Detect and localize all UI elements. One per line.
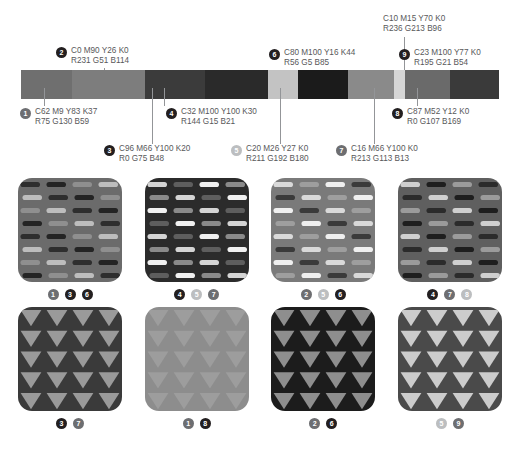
color-bar-segment-3 (145, 70, 205, 99)
color-bar-segment-4 (205, 70, 268, 99)
leader-line-7 (374, 88, 375, 144)
color-bar-segment-5 (268, 70, 298, 99)
swatch-triangle-2[interactable] (145, 307, 249, 411)
leader-line-5 (280, 88, 281, 144)
swatch-triangle-1[interactable] (18, 307, 122, 411)
callout-9-badge: 9 (399, 49, 410, 60)
swatch-dash-2-tags: 457 (174, 289, 219, 300)
swatch-bottom-cell-1: 37 (18, 307, 122, 429)
callout-6-badge: 6 (269, 49, 280, 60)
callout-5-text: C20 M26 Y27 K0 R211 G192 B180 (246, 144, 309, 165)
swatch-dash-4[interactable] (398, 178, 502, 282)
callout-8-text: C87 M52 Y12 K0 R0 G107 B169 (407, 107, 469, 128)
swatch-triangle-3-tags: 26 (309, 418, 337, 429)
callout-9-text: C23 M100 Y77 K0 R195 G21 B54 (414, 48, 481, 69)
callout-10-rgb: R236 G213 B96 (383, 24, 445, 34)
swatch-triangle-4-tags: 59 (436, 418, 464, 429)
callout-4-text: C32 M100 Y100 K30 R144 G15 B21 (181, 107, 257, 128)
color-bar-segment-9 (450, 70, 499, 99)
callout-9-cmyk: C23 M100 Y77 K0 (414, 48, 481, 58)
callout-10: C10 M15 Y70 K0 R236 G213 B96 (383, 14, 445, 35)
swatch-bottom-cell-3: 26 (271, 307, 375, 429)
swatch-triangle-1-tag-7: 7 (73, 418, 84, 429)
swatch-dash-1-tag-1: 1 (48, 289, 59, 300)
callout-3: 3 C96 M66 Y100 K20 R0 G75 B48 (104, 144, 190, 165)
swatch-dash-2-tag-4: 4 (174, 289, 185, 300)
swatch-dash-4-tag-7: 7 (444, 289, 455, 300)
callout-2-cmyk: C0 M90 Y26 K0 (71, 46, 129, 56)
leader-line-8 (417, 88, 418, 106)
swatch-top-cell-2: 457 (145, 178, 249, 300)
callout-6-rgb: R56 G5 B85 (284, 58, 355, 68)
callout-10-text: C10 M15 Y70 K0 R236 G213 B96 (383, 14, 445, 35)
callout-4-cmyk: C32 M100 Y100 K30 (181, 107, 257, 117)
callout-4: 4 C32 M100 Y100 K30 R144 G15 B21 (166, 107, 257, 128)
swatch-triangle-3-tag-2: 2 (309, 418, 320, 429)
callout-1: 1 C62 M9 Y83 K37 R75 G130 B59 (20, 107, 97, 128)
callout-1-rgb: R75 G130 B59 (35, 117, 97, 127)
swatch-triangle-3-tag-6: 6 (326, 418, 337, 429)
swatch-triangle-2-tag-1: 1 (183, 418, 194, 429)
callout-6-text: C80 M100 Y16 K44 R56 G5 B85 (284, 48, 355, 69)
swatch-bottom-cell-4: 59 (398, 307, 502, 429)
callout-3-cmyk: C96 M66 Y100 K20 (119, 144, 190, 154)
swatch-triangle-1-tags: 37 (56, 418, 84, 429)
swatch-triangle-1-tag-3: 3 (56, 418, 67, 429)
callout-9-rgb: R195 G21 B54 (414, 58, 481, 68)
swatch-dash-1-tag-6: 6 (82, 289, 93, 300)
swatch-triangle-4-tag-9: 9 (453, 418, 464, 429)
swatch-triangle-4-tag-5: 5 (436, 418, 447, 429)
color-bar-segment-1 (21, 70, 72, 99)
leader-line-1 (44, 88, 45, 106)
color-bar-segment-6 (298, 70, 348, 99)
color-bar-segment-10 (394, 70, 405, 99)
callout-3-rgb: R0 G75 B48 (119, 154, 190, 164)
callout-6: 6 C80 M100 Y16 K44 R56 G5 B85 (269, 48, 355, 69)
callout-9: 9 C23 M100 Y77 K0 R195 G21 B54 (399, 48, 481, 69)
swatch-dash-4-tags: 478 (427, 289, 472, 300)
color-bar (21, 70, 499, 99)
swatch-dash-1[interactable] (18, 178, 122, 282)
callout-8-badge: 8 (392, 108, 403, 119)
swatch-dash-2-tag-5: 5 (191, 289, 202, 300)
callout-1-cmyk: C62 M9 Y83 K37 (35, 107, 97, 117)
swatch-row-top: 136457256478 (0, 178, 520, 300)
swatch-top-cell-3: 256 (271, 178, 375, 300)
callout-7-text: C16 M66 Y100 K0 R213 G113 B13 (351, 144, 418, 165)
callout-4-badge: 4 (166, 108, 177, 119)
swatch-triangle-2-tag-8: 8 (200, 418, 211, 429)
swatch-dash-1-tags: 136 (48, 289, 93, 300)
callout-2-text: C0 M90 Y26 K0 R231 G51 B114 (71, 46, 129, 67)
swatch-dash-4-tag-8: 8 (461, 289, 472, 300)
callout-10-cmyk: C10 M15 Y70 K0 (383, 14, 445, 24)
swatch-top-cell-1: 136 (18, 178, 122, 300)
callout-7-cmyk: C16 M66 Y100 K0 (351, 144, 418, 154)
swatch-bottom-cell-2: 18 (145, 307, 249, 429)
swatch-top-cell-4: 478 (398, 178, 502, 300)
swatch-triangle-2-tags: 18 (183, 418, 211, 429)
swatch-triangle-4[interactable] (398, 307, 502, 411)
callout-8-rgb: R0 G107 B169 (407, 117, 469, 127)
callout-5-rgb: R211 G192 B180 (246, 154, 309, 164)
callout-3-text: C96 M66 Y100 K20 R0 G75 B48 (119, 144, 190, 165)
color-bar-segment-8 (405, 70, 450, 99)
callout-6-cmyk: C80 M100 Y16 K44 (284, 48, 355, 58)
swatch-dash-1-tag-3: 3 (65, 289, 76, 300)
callout-5-cmyk: C20 M26 Y27 K0 (246, 144, 309, 154)
callout-2: 2 C0 M90 Y26 K0 R231 G51 B114 (56, 46, 129, 67)
swatch-dash-3-tag-5: 5 (318, 289, 329, 300)
callout-1-text: C62 M9 Y83 K37 R75 G130 B59 (35, 107, 97, 128)
swatch-dash-3-tag-6: 6 (335, 289, 346, 300)
swatch-dash-2[interactable] (145, 178, 249, 282)
callout-7-rgb: R213 G113 B13 (351, 154, 418, 164)
swatch-dash-2-tag-7: 7 (208, 289, 219, 300)
swatch-dash-4-tag-4: 4 (427, 289, 438, 300)
leader-line-3 (152, 88, 153, 144)
callout-1-badge: 1 (20, 108, 31, 119)
callout-8-cmyk: C87 M52 Y12 K0 (407, 107, 469, 117)
swatch-dash-3[interactable] (271, 178, 375, 282)
callout-5-badge: 5 (231, 145, 242, 156)
swatch-triangle-3[interactable] (271, 307, 375, 411)
color-bar-segment-2 (72, 70, 145, 99)
callout-4-rgb: R144 G15 B21 (181, 117, 257, 127)
